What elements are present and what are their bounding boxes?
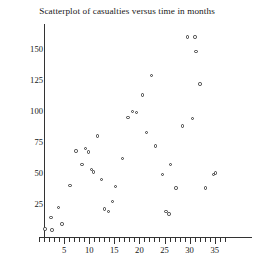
data-point xyxy=(107,210,110,213)
data-point xyxy=(114,185,117,188)
data-point xyxy=(57,206,60,209)
data-point xyxy=(141,93,144,96)
data-point xyxy=(193,35,196,38)
data-point xyxy=(126,116,129,119)
data-point xyxy=(96,134,99,137)
data-point xyxy=(100,178,103,181)
data-point xyxy=(74,149,77,152)
data-points-layer xyxy=(0,0,254,262)
data-point xyxy=(145,131,148,134)
data-point xyxy=(135,111,138,114)
data-point xyxy=(50,228,53,231)
data-point xyxy=(60,222,63,225)
data-point xyxy=(80,163,83,166)
data-point xyxy=(150,74,153,77)
data-point xyxy=(43,227,46,230)
data-point xyxy=(68,184,71,187)
data-point xyxy=(191,117,194,120)
data-point xyxy=(121,157,124,160)
data-point xyxy=(167,212,170,215)
data-point xyxy=(111,200,114,203)
data-point xyxy=(198,82,201,85)
data-point xyxy=(154,144,157,147)
data-point xyxy=(174,186,177,189)
scatterplot-figure: Scatterplot of casualties versus time in… xyxy=(0,0,254,262)
data-point xyxy=(92,170,95,173)
data-point xyxy=(214,171,217,174)
data-point xyxy=(194,50,197,53)
data-point xyxy=(181,124,184,127)
data-point xyxy=(87,150,90,153)
data-point xyxy=(103,207,106,210)
data-point xyxy=(169,163,172,166)
data-point xyxy=(204,186,207,189)
data-point xyxy=(49,216,52,219)
data-point xyxy=(131,110,134,113)
data-point xyxy=(186,35,189,38)
data-point xyxy=(161,173,164,176)
